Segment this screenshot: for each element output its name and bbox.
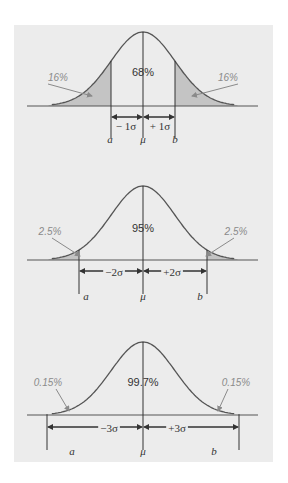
right-tail-pointer-arrow	[218, 389, 228, 411]
center-percent-label: 68%	[132, 66, 154, 78]
mu-label: μ	[139, 290, 146, 302]
left-sigma-label: −3σ	[100, 422, 118, 434]
b-label: b	[211, 445, 217, 457]
right-tail-pointer-arrow	[206, 238, 234, 256]
left-tail-percent-label: 0.15%	[34, 377, 62, 388]
panel-1sigma: 68% 16% 16% − 1σ + 1σ a μ b	[27, 32, 258, 145]
mu-label: μ	[139, 133, 146, 145]
left-sigma-label: − 1σ	[116, 120, 136, 132]
left-tail-pointer-arrow	[48, 84, 92, 96]
right-tail-percent-label: 2.5%	[224, 226, 248, 237]
a-label: a	[69, 445, 75, 457]
left-tail-pointer-arrow	[52, 238, 80, 256]
b-label: b	[197, 290, 203, 302]
mu-label: μ	[139, 445, 146, 457]
empirical-rule-diagram: 68% 16% 16% − 1σ + 1σ a μ b 95% 2.5% 2.5…	[0, 0, 288, 483]
a-label: a	[107, 133, 113, 145]
left-tail-pointer-arrow	[56, 389, 69, 411]
right-tail-area	[175, 61, 237, 106]
left-tail-percent-label: 16%	[48, 72, 68, 83]
a-label: a	[83, 290, 89, 302]
right-tail-percent-label: 0.15%	[222, 377, 250, 388]
panel-2sigma: 95% 2.5% 2.5% −2σ +2σ a μ b	[27, 186, 258, 302]
b-label: b	[172, 133, 178, 145]
right-sigma-label: + 1σ	[150, 120, 170, 132]
left-tail-area	[49, 61, 111, 106]
panel-3sigma: 99.7% 0.15% 0.15% −3σ +3σ a μ b	[27, 342, 258, 457]
center-percent-label: 99.7%	[127, 376, 158, 388]
right-sigma-label: +2σ	[163, 266, 181, 278]
right-sigma-label: +3σ	[168, 422, 186, 434]
left-sigma-label: −2σ	[105, 266, 123, 278]
left-tail-percent-label: 2.5%	[38, 226, 62, 237]
right-tail-percent-label: 16%	[218, 72, 238, 83]
center-percent-label: 95%	[132, 222, 154, 234]
